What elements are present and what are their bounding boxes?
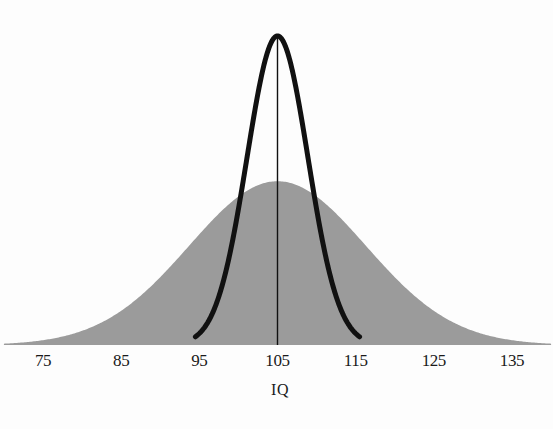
iq-distribution-chart: 758595105115125135 IQ [0,0,553,429]
x-axis-tick-label: 95 [191,351,207,370]
x-axis-tick-labels: 758595105115125135 [35,351,524,370]
chart-canvas: 758595105115125135 IQ [0,0,553,429]
x-axis-tick-label: 105 [265,351,289,370]
x-axis-tick-label: 125 [422,351,446,370]
x-axis-tick-label: 135 [500,351,524,370]
x-axis-tick-label: 85 [113,351,129,370]
x-axis-title: IQ [271,381,289,398]
x-axis-tick-label: 75 [35,351,51,370]
x-axis-tick-label: 115 [344,351,368,370]
